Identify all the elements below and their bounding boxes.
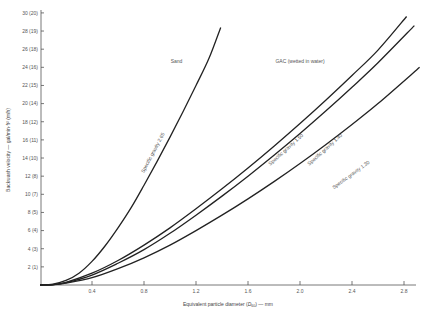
y-tick-label: 4 (3) — [28, 246, 39, 252]
curve-label: Specific gravity 1.30 — [331, 159, 371, 190]
y-tick-label: 16 (11) — [23, 137, 39, 143]
y-tick-label: 18 (12) — [22, 119, 38, 125]
x-tick-label: 2.8 — [401, 288, 408, 294]
y-tick-label: 12 (8) — [25, 173, 38, 179]
curve-labels: Specific gravity 2.65Specific gravity 1.… — [139, 131, 370, 190]
curve-specific-gravity-2-65 — [40, 27, 221, 285]
x-tick-label: 1.2 — [193, 288, 200, 294]
y-tick-label: 26 (18) — [22, 46, 38, 52]
annotations: SandGAC (wetted in water) — [171, 58, 325, 64]
curve-label: Specific gravity 1.50 — [267, 132, 304, 167]
y-tick-label: 6 (4) — [28, 227, 39, 233]
y-tick-label: 2 (1) — [28, 264, 39, 270]
x-ticks: 0.40.81.21.62.02.42.8 — [89, 281, 408, 294]
annotation-label: GAC (wetted in water) — [275, 58, 325, 64]
backwash-velocity-chart: 2 (1)4 (3)6 (4)8 (5)10 (7)12 (8)14 (10)1… — [0, 0, 428, 317]
curve-specific-gravity-1-30 — [40, 67, 420, 285]
x-tick-label: 0.8 — [141, 288, 148, 294]
y-tick-label: 14 (10) — [22, 155, 38, 161]
y-tick-label: 22 (15) — [22, 82, 38, 88]
y-axis-title: Backwash velocity — gal/min·ft² (m/h) — [5, 108, 11, 192]
curve-specific-gravity-1-40 — [40, 26, 414, 285]
curve-specific-gravity-1-50 — [40, 17, 407, 285]
curves — [40, 17, 420, 285]
x-tick-label: 2.0 — [297, 288, 304, 294]
y-tick-label: 8 (5) — [28, 209, 39, 215]
x-tick-label: 2.4 — [349, 288, 356, 294]
y-tick-label: 28 (19) — [22, 28, 38, 34]
y-tick-label: 20 (14) — [22, 100, 38, 106]
y-tick-label: 24 (16) — [22, 64, 38, 70]
x-tick-label: 1.6 — [245, 288, 252, 294]
y-tick-label: 30 (20) — [22, 10, 38, 16]
plot-area: 2 (1)4 (3)6 (4)8 (5)10 (7)12 (8)14 (10)1… — [22, 10, 419, 294]
curve-label: Specific gravity 1.40 — [306, 132, 343, 167]
y-tick-label: 10 (7) — [25, 191, 38, 197]
x-axis-title: Equivalent particle diameter (D60) — mm — [183, 301, 273, 308]
annotation-label: Sand — [171, 58, 183, 64]
x-tick-label: 0.4 — [89, 288, 96, 294]
